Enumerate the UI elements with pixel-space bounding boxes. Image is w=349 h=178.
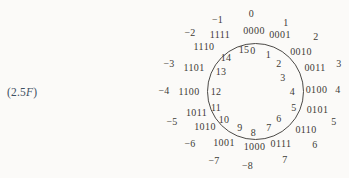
outer-signed-label: −5 xyxy=(166,117,177,127)
caption-prefix: (2.5 xyxy=(7,86,26,98)
outer-signed-label: −1 xyxy=(212,15,223,25)
outer-signed-label: 7 xyxy=(282,155,287,165)
figure-caption: (2.5F) xyxy=(7,86,37,98)
caption-suffix: ) xyxy=(33,86,37,98)
inner-unsigned-label: 0 xyxy=(250,46,255,56)
inner-unsigned-label: 15 xyxy=(239,45,250,55)
binary-code-label: 1111 xyxy=(210,30,231,40)
inner-unsigned-label: 7 xyxy=(266,123,271,133)
inner-unsigned-label: 1 xyxy=(266,50,271,60)
inner-unsigned-label: 8 xyxy=(251,128,256,138)
binary-code-label: 1100 xyxy=(178,87,199,97)
outer-signed-label: 1 xyxy=(283,18,288,28)
binary-code-label: 1011 xyxy=(186,108,207,118)
binary-code-label: 0111 xyxy=(271,139,292,149)
inner-unsigned-label: 9 xyxy=(237,123,242,133)
binary-code-label: 0001 xyxy=(269,30,291,40)
outer-signed-label: 6 xyxy=(312,140,317,150)
outer-signed-label: −4 xyxy=(158,86,169,96)
inner-unsigned-label: 10 xyxy=(219,115,230,125)
inner-unsigned-label: 14 xyxy=(221,53,232,63)
outer-signed-label: 4 xyxy=(335,85,340,95)
inner-unsigned-label: 12 xyxy=(211,87,222,97)
binary-code-label: 0110 xyxy=(295,125,316,135)
binary-code-label: 0010 xyxy=(290,47,312,57)
inner-unsigned-label: 6 xyxy=(276,114,281,124)
outer-signed-label: 3 xyxy=(336,59,341,69)
outer-signed-label: −7 xyxy=(208,156,219,166)
binary-code-label: 1110 xyxy=(194,42,215,52)
inner-unsigned-label: 5 xyxy=(291,103,296,113)
outer-signed-label: −2 xyxy=(184,28,195,38)
binary-code-label: 1101 xyxy=(183,63,204,73)
outer-signed-label: 2 xyxy=(313,32,318,42)
binary-code-label: 0000 xyxy=(243,26,265,36)
inner-unsigned-label: 13 xyxy=(216,67,227,77)
inner-unsigned-label: 3 xyxy=(280,73,285,83)
binary-code-label: 0100 xyxy=(306,85,328,95)
inner-unsigned-label: 11 xyxy=(211,103,221,113)
outer-signed-label: 0 xyxy=(249,9,254,19)
twos-complement-number-wheel: (2.5F) 0123456789101112131415 0000000100… xyxy=(0,0,349,178)
binary-code-label: 1000 xyxy=(244,142,266,152)
inner-unsigned-label: 2 xyxy=(276,59,281,69)
binary-code-label: 0011 xyxy=(304,63,325,73)
binary-code-label: 1001 xyxy=(213,138,235,148)
inner-unsigned-label: 4 xyxy=(290,87,295,97)
binary-code-label: 1010 xyxy=(194,122,216,132)
binary-code-label: 0101 xyxy=(307,105,329,115)
outer-signed-label: −3 xyxy=(163,59,174,69)
outer-signed-label: −6 xyxy=(184,139,195,149)
outer-signed-label: −8 xyxy=(242,161,253,171)
outer-signed-label: 5 xyxy=(331,117,336,127)
